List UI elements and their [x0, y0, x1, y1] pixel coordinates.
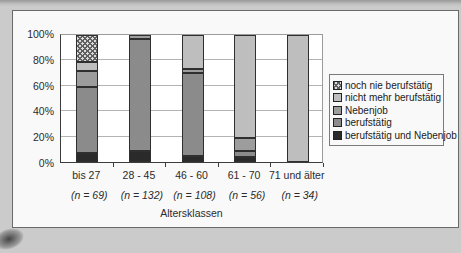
- y-tick-label-60: 60%: [13, 80, 54, 92]
- segment-nicht-mehr-berufst-tig: [182, 35, 204, 69]
- bar-61-70: [234, 35, 256, 162]
- chart-frame: Altersklassen noch nie berufstätignicht …: [12, 10, 459, 228]
- category-label-71-und-lter: 71 und älter: [269, 169, 324, 181]
- x-axis-tick: [218, 163, 219, 167]
- segment-berufst-tig-und-nebenjob: [76, 153, 98, 162]
- category-label-bis-27: bis 27: [72, 169, 100, 181]
- legend: noch nie berufstätignicht mehr berufstät…: [329, 74, 444, 146]
- n-label-71-und-lter: (n = 34): [281, 189, 317, 201]
- y-tick-label-100: 100%: [13, 28, 54, 40]
- bar-28-45: [129, 35, 151, 162]
- x-axis-tick: [270, 163, 271, 167]
- segment-berufst-tig-und-nebenjob: [234, 157, 256, 162]
- legend-swatch-berufst-tig-und-nebenjob: [333, 131, 342, 140]
- segment-nicht-mehr-berufst-tig: [287, 35, 309, 162]
- legend-swatch-nebenjob: [333, 106, 342, 115]
- bar-71-und-lter: [287, 35, 309, 162]
- x-axis-tick: [113, 163, 114, 167]
- n-label-46-60: (n = 108): [173, 189, 215, 201]
- y-tick-label-0: 0%: [13, 157, 54, 169]
- y-tick-label-20: 20%: [13, 131, 54, 143]
- segment-nicht-mehr-berufst-tig: [76, 62, 98, 71]
- scan-smudge-artifact: [0, 225, 26, 253]
- x-axis-title: Altersklassen: [60, 207, 323, 219]
- category-label-61-70: 61 - 70: [228, 169, 261, 181]
- segment-nebenjob: [76, 71, 98, 88]
- bar-bis-27: [76, 35, 98, 162]
- legend-label-nebenjob: Nebenjob: [345, 105, 388, 116]
- x-axis-tick: [323, 163, 324, 167]
- legend-label-nicht-mehr-berufst-tig: nicht mehr berufstätig: [345, 92, 441, 103]
- segment-berufst-tig: [76, 87, 98, 153]
- n-label-28-45: (n = 132): [121, 189, 163, 201]
- x-axis-tick: [165, 163, 166, 167]
- y-tick-label-80: 80%: [13, 54, 54, 66]
- legend-row-nicht-mehr-berufst-tig: nicht mehr berufstätig: [333, 92, 440, 104]
- legend-swatch-nicht-mehr-berufst-tig: [333, 93, 342, 102]
- segment-berufst-tig-und-nebenjob: [129, 151, 151, 162]
- scan-edge-artifact: [0, 0, 461, 7]
- legend-label-noch-nie-berufst-tig: noch nie berufstätig: [345, 80, 432, 91]
- n-label-bis-27: (n = 69): [71, 189, 107, 201]
- legend-swatch-berufst-tig: [333, 118, 342, 127]
- segment-nebenjob: [234, 138, 256, 151]
- n-label-61-70: (n = 56): [229, 189, 265, 201]
- category-label-46-60: 46 - 60: [175, 169, 208, 181]
- segment-berufst-tig-und-nebenjob: [182, 156, 204, 162]
- plot-area: [60, 34, 323, 163]
- legend-row-noch-nie-berufst-tig: noch nie berufstätig: [333, 79, 440, 91]
- legend-label-berufst-tig: berufstätig: [345, 117, 392, 128]
- legend-row-nebenjob: Nebenjob: [333, 104, 440, 116]
- segment-noch-nie-berufst-tig: [76, 35, 98, 62]
- legend-label-berufst-tig-und-nebenjob: berufstätig und Nebenjob: [345, 130, 457, 141]
- legend-swatch-noch-nie-berufst-tig: [333, 81, 342, 90]
- segment-berufst-tig: [182, 73, 204, 156]
- category-label-28-45: 28 - 45: [123, 169, 156, 181]
- legend-row-berufst-tig-und-nebenjob: berufstätig und Nebenjob: [333, 129, 440, 141]
- segment-berufst-tig: [129, 39, 151, 151]
- y-tick-label-40: 40%: [13, 105, 54, 117]
- legend-row-berufst-tig: berufstätig: [333, 117, 440, 129]
- segment-nicht-mehr-berufst-tig: [234, 35, 256, 138]
- bar-46-60: [182, 35, 204, 162]
